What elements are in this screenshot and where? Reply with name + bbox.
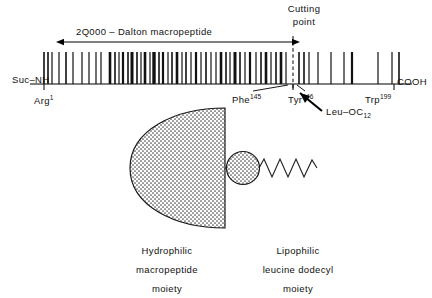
residue-leader-lines <box>253 85 305 91</box>
caption-lipophilic-moiety: Lipophilic leucine dodecyl moiety <box>238 241 358 298</box>
caption-left-line1: Hydrophilic <box>142 245 193 256</box>
caption-right-line3: moiety <box>283 283 313 294</box>
cutting-point-line2: point <box>293 16 315 27</box>
cleavage-product-label: Leu–OC12 <box>326 106 371 119</box>
residue-arg1-index: 1 <box>50 94 54 101</box>
cutting-point-label: Cutting point <box>272 3 336 28</box>
span-arrow-label: 2Q000 – Dalton macropeptide <box>76 26 212 37</box>
residue-tick-group <box>44 52 399 84</box>
residue-tyr146-name: Tyr <box>288 94 302 105</box>
cutting-point-line1: Cutting <box>288 3 321 14</box>
caption-hydrophilic-moiety: Hydrophilic macropeptide moiety <box>113 241 221 298</box>
macropeptide-blob <box>130 108 225 228</box>
residue-phe145-name: Phe <box>232 94 250 105</box>
caption-right-line1: Lipophilic <box>276 245 319 256</box>
residue-arg1-label: Arg1 <box>34 94 54 106</box>
cleavage-product-name: Leu–OC <box>326 106 363 117</box>
residue-trp199-name: Trp <box>365 94 380 105</box>
cleavage-product-index: 12 <box>363 112 371 119</box>
terminus-index-ticks <box>44 84 394 90</box>
residue-phe145-label: Phe145 <box>232 93 261 105</box>
caption-left-line2: macropeptide <box>136 264 198 275</box>
peptide-schematic-figure: Cutting point 2Q000 – Dalton macropeptid… <box>0 0 432 298</box>
residue-tyr146-index: 146 <box>302 93 313 100</box>
n-terminus-label: Suc–NH <box>12 74 49 85</box>
leucine-head-circle <box>227 152 260 185</box>
residue-trp199-label: Trp199 <box>365 93 391 105</box>
residue-phe145-index: 145 <box>250 93 261 100</box>
caption-right-line2: leucine dodecyl <box>263 264 334 275</box>
dodecyl-tail-zigzag <box>259 159 317 177</box>
residue-tyr146-label: Tyr146 <box>288 93 314 105</box>
residue-arg1-name: Arg <box>34 95 50 106</box>
caption-left-line3: moiety <box>152 283 182 294</box>
c-terminus-label: COOH <box>397 76 427 87</box>
residue-trp199-index: 199 <box>380 93 391 100</box>
